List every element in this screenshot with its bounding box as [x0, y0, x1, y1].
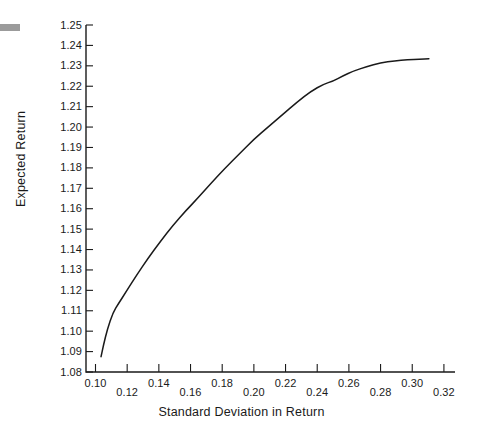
x-axis-title: Standard Deviation in Return: [0, 405, 483, 419]
y-axis-title-wrapper: Expected Return: [11, 79, 29, 239]
x-tick-label: 0.32: [424, 387, 464, 398]
y-axis-title: Expected Return: [14, 111, 28, 207]
chart-figure: 1.081.091.101.111.121.131.141.151.161.17…: [0, 0, 483, 441]
x-axis-tick-labels: 0.100.120.140.160.180.200.220.240.260.28…: [0, 0, 483, 441]
